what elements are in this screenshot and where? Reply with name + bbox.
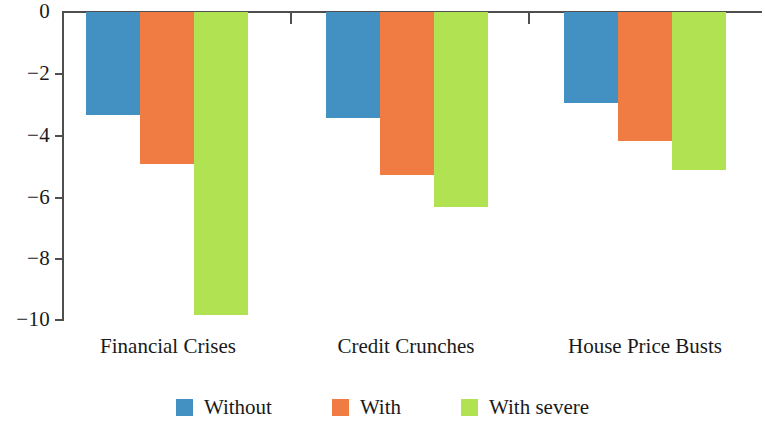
y-tick-label-minus6: −6	[2, 187, 50, 208]
category-label-credit-crunches: Credit Crunches	[326, 334, 486, 358]
y-tick-mark	[55, 319, 64, 321]
y-tick-mark	[55, 73, 64, 75]
bar-with-severe-group-1	[194, 12, 248, 315]
plot-area: 0 −2 −4 −6 −8 −10 Financial Crises Credi…	[0, 0, 765, 330]
y-tick-mark	[55, 197, 64, 199]
bar-with-group-2	[380, 12, 434, 175]
bar-without-group-3	[564, 12, 618, 103]
legend-label-with-severe: With severe	[489, 397, 589, 418]
y-tick-label-minus8: −8	[2, 248, 50, 269]
y-tick-mark	[55, 135, 64, 137]
category-label-house-price-busts: House Price Busts	[564, 334, 726, 358]
legend-item-without: Without	[176, 397, 272, 418]
legend-label-with: With	[360, 397, 401, 418]
chart-legend: Without With With severe	[0, 392, 765, 422]
x-separator-tick	[290, 13, 292, 24]
y-tick-label-minus10: −10	[2, 309, 50, 330]
bar-with-severe-group-2	[434, 12, 488, 207]
bar-with-group-1	[140, 12, 194, 164]
bar-without-group-2	[326, 12, 380, 118]
legend-item-with: With	[332, 397, 401, 418]
category-label-financial-crises: Financial Crises	[86, 334, 250, 358]
bar-chart: 0 −2 −4 −6 −8 −10 Financial Crises Credi…	[0, 0, 765, 427]
legend-label-without: Without	[204, 397, 272, 418]
y-tick-label-0: 0	[2, 1, 50, 22]
bar-without-group-1	[86, 12, 140, 115]
legend-swatch-with-severe-icon	[461, 399, 478, 416]
y-tick-label-minus4: −4	[2, 125, 50, 146]
y-tick-label-minus2: −2	[2, 63, 50, 84]
legend-swatch-with-icon	[332, 399, 349, 416]
x-separator-tick	[528, 13, 530, 24]
bar-with-group-3	[618, 12, 672, 141]
y-axis-line	[62, 12, 64, 320]
legend-swatch-without-icon	[176, 399, 193, 416]
legend-item-with-severe: With severe	[461, 397, 589, 418]
y-tick-mark	[55, 258, 64, 260]
bar-with-severe-group-3	[672, 12, 726, 170]
